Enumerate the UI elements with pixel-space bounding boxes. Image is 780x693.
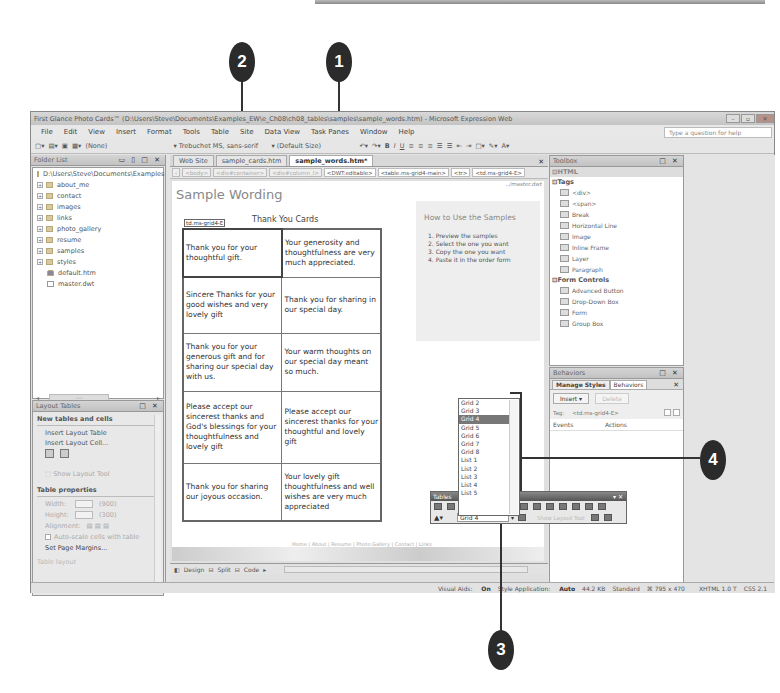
numbering-icon[interactable]: ☰ xyxy=(437,142,443,150)
menu-data-view[interactable]: Data View xyxy=(264,128,300,136)
save-icon[interactable]: ▣ xyxy=(62,142,68,150)
height-input[interactable] xyxy=(75,511,93,519)
redo-icon[interactable]: ↷▾ xyxy=(372,142,381,150)
font-color-icon[interactable]: A▾ xyxy=(502,142,510,150)
bullets-icon[interactable]: ☰ xyxy=(447,142,453,150)
menu-insert[interactable]: Insert xyxy=(116,128,136,136)
table-cell[interactable]: Please accept our sincerest thanks and G… xyxy=(183,391,282,463)
menu-window[interactable]: Window xyxy=(360,128,388,136)
close-tab-icon[interactable]: ✕ xyxy=(673,381,679,389)
highlight-icon[interactable]: ✎▾ xyxy=(489,142,498,150)
expand-icon[interactable]: + xyxy=(37,204,43,210)
minimize-button[interactable]: – xyxy=(726,114,740,123)
expand-icon[interactable]: + xyxy=(37,248,43,254)
split-view-button[interactable]: ⊟Split xyxy=(208,566,230,573)
maximize-button[interactable]: ▫ xyxy=(741,114,755,123)
layout-tables-scrollbar[interactable] xyxy=(154,415,161,590)
toolbox-form-section[interactable]: ⊟ Form Controls xyxy=(550,275,683,285)
menu-tools[interactable]: Tools xyxy=(183,128,200,136)
toolbox-html-section[interactable]: ⊟ HTML xyxy=(550,167,683,177)
table-cell[interactable]: Thank you for sharing in our special day… xyxy=(282,277,381,333)
toolbox-item-paragraph[interactable]: Paragraph xyxy=(550,264,683,275)
distribute-columns-icon[interactable] xyxy=(598,503,606,510)
child-tag-button[interactable] xyxy=(673,409,680,416)
menu-help[interactable]: Help xyxy=(399,128,415,136)
set-page-margins-link[interactable]: Set Page Margins... xyxy=(45,544,151,552)
behaviors-controls[interactable]: □ ✕ xyxy=(659,369,680,377)
insert-row-icon[interactable] xyxy=(434,503,442,510)
draw-layout-cell-icon[interactable] xyxy=(604,514,612,521)
tab-manage-styles[interactable]: Manage Styles xyxy=(552,380,610,389)
align-center-icon[interactable]: ≡ xyxy=(418,142,423,150)
toolbox-controls[interactable]: □ ✕ xyxy=(659,157,680,165)
toolbox-item-span[interactable]: <span> xyxy=(550,198,683,209)
folder-item[interactable]: +photo_gallery xyxy=(33,223,163,234)
open-icon[interactable]: ▤▾ xyxy=(48,142,57,150)
code-view-button[interactable]: ⊟Code xyxy=(235,566,259,573)
align-middle-icon[interactable] xyxy=(559,503,567,510)
fill-color-icon[interactable]: ▲▾ xyxy=(434,514,443,522)
quick-tag[interactable]: <div#column_l> xyxy=(269,168,322,177)
delete-behavior-button[interactable]: Delete xyxy=(595,393,629,404)
toolbox-tags-section[interactable]: ⊟ Tags xyxy=(550,177,683,187)
split-cells-icon[interactable] xyxy=(533,503,541,510)
folder-item[interactable]: +images xyxy=(33,201,163,212)
dropdown-scrollbar[interactable] xyxy=(509,400,518,514)
folder-item[interactable]: +about_me xyxy=(33,179,163,190)
draw-table-icon[interactable] xyxy=(45,449,54,458)
toolbox-item-div[interactable]: <div> xyxy=(550,187,683,198)
distribute-rows-icon[interactable] xyxy=(585,503,593,510)
align-buttons[interactable]: ▤ ▤ ▤ xyxy=(87,522,110,530)
publish-icon[interactable]: ▦▾ xyxy=(72,142,81,150)
tab-sample-words[interactable]: sample_words.htm* xyxy=(289,155,373,166)
insert-layout-cell-link[interactable]: Insert Layout Cell... xyxy=(45,439,151,447)
table-style-dropdown-list[interactable]: Grid 2 Grid 3 Grid 4 Grid 5 Grid 6 Grid … xyxy=(458,398,520,516)
parent-tag-button[interactable] xyxy=(664,409,671,416)
quick-tag[interactable]: <table.ms-grid4-main> xyxy=(378,168,449,177)
tab-web-site[interactable]: Web Site xyxy=(173,155,214,166)
expand-icon[interactable]: + xyxy=(37,259,43,265)
bold-button[interactable]: B xyxy=(385,142,390,150)
expand-icon[interactable]: + xyxy=(37,215,43,221)
quick-tag-scroll-left[interactable]: ‹ xyxy=(172,168,180,177)
new-icon[interactable]: ▢▾ xyxy=(35,142,44,150)
table-cell[interactable]: Please accept our sincerest thanks for y… xyxy=(282,391,381,463)
quick-tag[interactable]: <body> xyxy=(182,168,211,177)
insert-layout-table-link[interactable]: Insert Layout Table xyxy=(45,429,151,437)
close-document-icon[interactable]: ✕ xyxy=(538,158,544,166)
visual-aids-status[interactable]: Visual Aids: On xyxy=(438,585,491,592)
underline-button[interactable]: U xyxy=(400,142,405,150)
align-bottom-icon[interactable] xyxy=(572,503,580,510)
align-left-icon[interactable]: ≡ xyxy=(408,142,413,150)
table-cell[interactable]: Thank you for your thoughtful gift. xyxy=(183,229,282,277)
align-right-icon[interactable]: ≡ xyxy=(427,142,432,150)
toolbox-item-advanced-button[interactable]: Advanced Button xyxy=(550,285,683,296)
quick-tag[interactable]: <DWT:editable> xyxy=(324,168,376,177)
expand-icon[interactable]: + xyxy=(37,182,43,188)
help-search-input[interactable]: Type a question for help xyxy=(664,127,772,138)
insert-behavior-button[interactable]: Insert ▾ xyxy=(553,393,589,404)
design-view-button[interactable]: ◧Design xyxy=(174,566,204,573)
view-menu-icon[interactable]: ▸ xyxy=(263,566,266,573)
merge-cells-icon[interactable] xyxy=(520,503,528,510)
show-layout-tool-toggle[interactable]: ⬚ Show Layout Tool xyxy=(45,470,151,478)
quick-tag[interactable]: <td.ms-grid4-E> xyxy=(472,168,525,177)
folder-list-controls[interactable]: ▭ ▯ □ ✕ xyxy=(118,156,162,164)
layout-tables-controls[interactable]: □ ✕ xyxy=(139,402,160,410)
css-version[interactable]: CSS 2.1 xyxy=(744,585,767,592)
table-cell[interactable]: Your warm thoughts on our special day me… xyxy=(282,333,381,391)
expand-icon[interactable]: + xyxy=(37,237,43,243)
file-item[interactable]: master.dwt xyxy=(33,278,163,289)
undo-icon[interactable]: ↶▾ xyxy=(359,142,368,150)
width-input[interactable] xyxy=(75,500,93,508)
outdent-icon[interactable]: ⇤ xyxy=(456,142,461,150)
file-item[interactable]: default.htm xyxy=(33,267,163,278)
menu-file[interactable]: File xyxy=(41,128,53,136)
table-cell[interactable]: Sincere Thanks for your good wishes and … xyxy=(183,277,282,333)
quick-tag[interactable]: <tr> xyxy=(451,168,471,177)
size-select[interactable]: ▾ (Default Size) xyxy=(271,142,351,150)
folder-item[interactable]: +links xyxy=(33,212,163,223)
folder-root[interactable]: D:\Users\Steve\Documents\Examples xyxy=(33,168,163,179)
menu-site[interactable]: Site xyxy=(240,128,253,136)
borders-icon[interactable]: □▾ xyxy=(475,142,484,150)
